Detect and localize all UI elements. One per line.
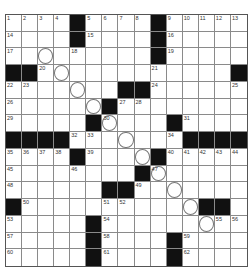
grid-cell[interactable] (135, 249, 151, 266)
grid-cell[interactable] (135, 48, 151, 65)
grid-cell[interactable] (38, 182, 54, 199)
grid-cell[interactable] (199, 233, 215, 250)
grid-cell[interactable] (38, 32, 54, 49)
grid-cell[interactable] (22, 249, 38, 266)
grid-cell[interactable] (199, 182, 215, 199)
grid-cell[interactable] (151, 115, 167, 132)
grid-cell[interactable] (118, 32, 134, 49)
grid-cell[interactable] (86, 166, 102, 183)
grid-cell[interactable]: 19 (167, 48, 183, 65)
grid-cell[interactable] (215, 82, 231, 99)
grid-cell[interactable]: 26 (6, 99, 22, 116)
grid-cell[interactable] (70, 115, 86, 132)
grid-cell[interactable] (38, 216, 54, 233)
grid-cell[interactable] (167, 82, 183, 99)
grid-cell[interactable] (135, 199, 151, 216)
grid-cell[interactable]: 23 (22, 82, 38, 99)
grid-cell[interactable]: 36 (22, 149, 38, 166)
grid-cell[interactable] (38, 249, 54, 266)
grid-cell[interactable] (22, 32, 38, 49)
grid-cell[interactable] (118, 149, 134, 166)
grid-cell[interactable]: 54 (102, 216, 118, 233)
grid-cell[interactable] (54, 166, 70, 183)
grid-cell[interactable]: 46 (70, 166, 86, 183)
grid-cell[interactable]: 39 (86, 149, 102, 166)
grid-cell[interactable] (86, 99, 102, 116)
grid-cell[interactable] (38, 82, 54, 99)
grid-cell[interactable] (183, 99, 199, 116)
grid-cell[interactable] (199, 99, 215, 116)
grid-cell[interactable]: 13 (231, 15, 247, 32)
grid-cell[interactable] (231, 99, 247, 116)
grid-cell[interactable] (102, 166, 118, 183)
grid-cell[interactable] (215, 182, 231, 199)
grid-cell[interactable] (199, 249, 215, 266)
grid-cell[interactable] (102, 32, 118, 49)
grid-cell[interactable]: 40 (167, 149, 183, 166)
grid-cell[interactable] (151, 182, 167, 199)
grid-cell[interactable] (183, 48, 199, 65)
grid-cell[interactable] (183, 82, 199, 99)
grid-cell[interactable] (22, 233, 38, 250)
grid-cell[interactable] (151, 99, 167, 116)
grid-cell[interactable] (54, 233, 70, 250)
grid-cell[interactable]: 12 (215, 15, 231, 32)
grid-cell[interactable] (70, 216, 86, 233)
grid-cell[interactable] (151, 216, 167, 233)
grid-cell[interactable]: 59 (183, 233, 199, 250)
grid-cell[interactable]: 24 (151, 82, 167, 99)
grid-cell[interactable]: 8 (135, 15, 151, 32)
grid-cell[interactable]: 15 (86, 32, 102, 49)
grid-cell[interactable] (22, 166, 38, 183)
grid-cell[interactable] (183, 166, 199, 183)
grid-cell[interactable]: 30 (102, 115, 118, 132)
grid-cell[interactable]: 61 (102, 249, 118, 266)
grid-cell[interactable] (118, 48, 134, 65)
grid-cell[interactable] (86, 199, 102, 216)
grid-cell[interactable] (215, 48, 231, 65)
grid-cell[interactable]: 9 (167, 15, 183, 32)
grid-cell[interactable] (86, 48, 102, 65)
grid-cell[interactable]: 42 (199, 149, 215, 166)
grid-cell[interactable] (118, 132, 134, 149)
grid-cell[interactable]: 32 (70, 132, 86, 149)
grid-cell[interactable]: 56 (231, 216, 247, 233)
grid-cell[interactable] (199, 166, 215, 183)
grid-cell[interactable] (118, 65, 134, 82)
grid-cell[interactable]: 20 (38, 65, 54, 82)
grid-cell[interactable]: 48 (6, 182, 22, 199)
grid-cell[interactable] (199, 216, 215, 233)
grid-cell[interactable]: 53 (6, 216, 22, 233)
grid-cell[interactable] (135, 65, 151, 82)
grid-cell[interactable]: 1 (6, 15, 22, 32)
grid-cell[interactable] (70, 233, 86, 250)
grid-cell[interactable] (231, 48, 247, 65)
grid-cell[interactable] (38, 233, 54, 250)
grid-cell[interactable]: 52 (118, 199, 134, 216)
grid-cell[interactable]: 21 (151, 65, 167, 82)
grid-cell[interactable] (167, 166, 183, 183)
grid-cell[interactable]: 17 (6, 48, 22, 65)
grid-cell[interactable]: 38 (54, 149, 70, 166)
grid-cell[interactable] (118, 166, 134, 183)
grid-cell[interactable] (54, 199, 70, 216)
grid-cell[interactable]: 4 (54, 15, 70, 32)
grid-cell[interactable]: 33 (86, 132, 102, 149)
grid-cell[interactable]: 43 (215, 149, 231, 166)
grid-cell[interactable]: 37 (38, 149, 54, 166)
grid-cell[interactable]: 25 (231, 82, 247, 99)
grid-cell[interactable] (102, 82, 118, 99)
grid-cell[interactable] (215, 233, 231, 250)
grid-cell[interactable] (215, 249, 231, 266)
grid-cell[interactable] (22, 182, 38, 199)
grid-cell[interactable] (54, 82, 70, 99)
grid-cell[interactable] (183, 32, 199, 49)
grid-cell[interactable] (199, 48, 215, 65)
grid-cell[interactable] (86, 65, 102, 82)
grid-cell[interactable]: 45 (6, 166, 22, 183)
grid-cell[interactable] (38, 166, 54, 183)
grid-cell[interactable] (167, 65, 183, 82)
grid-cell[interactable]: 2 (22, 15, 38, 32)
grid-cell[interactable] (151, 233, 167, 250)
grid-cell[interactable] (215, 32, 231, 49)
